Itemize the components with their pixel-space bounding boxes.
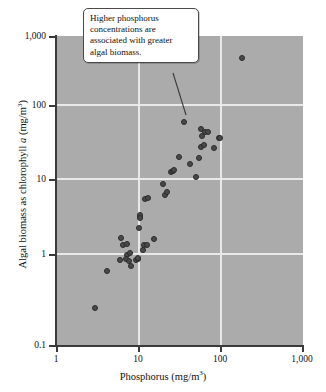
- y-axis-line: [55, 35, 57, 346]
- data-point: [176, 154, 182, 160]
- y-axis-title-exponent: 3: [16, 104, 24, 108]
- x-axis-title-text: Phosphorus (mg/m: [120, 371, 200, 382]
- y-ticklabel-1000: 1,000: [0, 31, 46, 41]
- gridline-x-100: [220, 36, 222, 345]
- y-axis-title-pre: Algal biomass as chlorophyll: [17, 143, 28, 268]
- data-point: [181, 119, 187, 125]
- y-axis-title: Algal biomass as chlorophyll a (mg/m3): [16, 54, 29, 314]
- x-tick-10: [138, 346, 140, 352]
- data-point: [135, 255, 141, 261]
- x-axis-title-tail: ): [203, 371, 207, 382]
- data-point: [193, 174, 199, 180]
- scatter-plot-area: [56, 36, 303, 345]
- y-tick-10: [49, 179, 56, 181]
- data-point: [239, 55, 245, 61]
- x-tick-1: [56, 346, 58, 352]
- data-point: [164, 189, 170, 195]
- y-tick-1000: [49, 36, 56, 38]
- annotation-line-3: associated with greater: [90, 35, 193, 46]
- y-tick-0.1: [49, 345, 56, 347]
- gridline-y-1: [56, 253, 303, 255]
- gridline-y-100: [56, 104, 303, 106]
- data-point: [128, 263, 134, 269]
- data-point: [211, 145, 217, 151]
- y-tick-100: [49, 105, 56, 107]
- x-ticklabel-100: 100: [190, 354, 250, 364]
- annotation-line-1: Higher phosphorus: [90, 13, 193, 24]
- x-ticklabel-10: 10: [108, 354, 168, 364]
- annotation-line-4: algal biomass.: [90, 47, 193, 58]
- x-ticklabel-1: 1: [26, 354, 86, 364]
- data-point: [145, 195, 151, 201]
- annotation-callout: Higher phosphorus concentrations are ass…: [83, 8, 199, 63]
- data-point: [201, 142, 207, 148]
- chart-figure: 1,000 100 10 1 0.1 1 10 100 1,000 Phosph…: [0, 0, 326, 392]
- data-point: [205, 129, 211, 135]
- data-point: [160, 181, 166, 187]
- x-ticklabel-1000: 1,000: [272, 354, 326, 364]
- y-tick-1: [49, 254, 56, 256]
- data-point: [217, 135, 223, 141]
- data-point: [151, 236, 157, 242]
- y-ticklabel-0.1: 0.1: [0, 340, 46, 350]
- data-point: [144, 242, 150, 248]
- data-point: [171, 167, 177, 173]
- data-point: [118, 235, 124, 241]
- gridline-x-10: [138, 36, 140, 345]
- data-point: [187, 161, 193, 167]
- x-tick-100: [220, 346, 222, 352]
- y-axis-title-mid: (mg/m: [17, 107, 28, 138]
- x-axis-title: Phosphorus (mg/m3): [0, 369, 326, 382]
- x-axis-line: [55, 345, 304, 347]
- annotation-line-2: concentrations are: [90, 24, 193, 35]
- data-point: [136, 225, 142, 231]
- y-axis-title-italic: a: [17, 138, 28, 143]
- data-point: [137, 215, 143, 221]
- x-tick-1000: [302, 346, 304, 352]
- data-point: [92, 305, 98, 311]
- data-point: [127, 250, 133, 256]
- data-point: [104, 268, 110, 274]
- data-point: [196, 155, 202, 161]
- y-axis-title-tail: ): [17, 100, 28, 104]
- gridline-y-10: [56, 178, 303, 180]
- data-point: [124, 241, 130, 247]
